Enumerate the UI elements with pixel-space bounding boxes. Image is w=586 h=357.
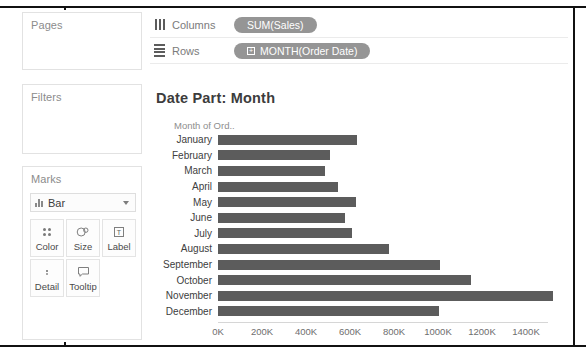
visualization-view: Date Part: Month Month of Ord.. JanuaryF… <box>150 66 568 342</box>
chart-row: March <box>150 163 568 179</box>
columns-shelf-label: Columns <box>172 19 234 31</box>
x-axis-tick-label: 600K <box>339 326 361 337</box>
x-axis-tick-label: 0K <box>212 326 224 337</box>
category-label: February <box>150 150 218 161</box>
chart-row: October <box>150 272 568 288</box>
marks-buttons: Color Size T <box>30 219 136 297</box>
category-label: September <box>150 259 218 270</box>
bar-track <box>218 179 568 195</box>
category-label: January <box>150 134 218 145</box>
x-axis: 0K200K400K600K800K1000K1200K1400K <box>150 322 568 340</box>
bar-track <box>218 241 568 257</box>
chart-row: May <box>150 194 568 210</box>
category-label: April <box>150 181 218 192</box>
pages-card[interactable]: Pages <box>22 12 142 70</box>
bar-track <box>218 132 568 148</box>
bar-chart[interactable]: JanuaryFebruaryMarchAprilMayJuneJulyAugu… <box>150 132 568 320</box>
chart-row: December <box>150 304 568 320</box>
marks-button-detail[interactable]: Detail <box>30 259 64 297</box>
marks-button-label[interactable]: T Label <box>102 219 136 257</box>
svg-text:T: T <box>117 229 122 236</box>
row-header-caption: Month of Ord.. <box>174 120 235 131</box>
category-label: March <box>150 165 218 176</box>
marks-button-label-label: Label <box>107 242 130 252</box>
marks-button-tooltip[interactable]: Tooltip <box>66 259 100 297</box>
bar-mark[interactable] <box>218 260 440 270</box>
bar-track <box>218 210 568 226</box>
rows-shelf[interactable]: Rows + MONTH(Order Date) <box>150 38 568 64</box>
bar-track <box>218 288 568 304</box>
frame-right-border <box>573 6 575 347</box>
bar-track <box>218 272 568 288</box>
chart-row: January <box>150 132 568 148</box>
marks-card: Marks Bar Color <box>22 166 142 340</box>
category-label: October <box>150 275 218 286</box>
bar-mark[interactable] <box>218 228 352 238</box>
marks-button-size[interactable]: Size <box>66 219 100 257</box>
left-rail: Pages Filters Marks Bar Color <box>22 10 142 342</box>
rows-icon <box>153 45 167 57</box>
bar-mark[interactable] <box>218 213 345 223</box>
marks-button-size-label: Size <box>74 242 92 252</box>
bar-mark[interactable] <box>218 244 389 254</box>
chevron-down-icon[interactable] <box>123 201 129 205</box>
chart-row: July <box>150 226 568 242</box>
frame-bottom-border <box>0 345 586 347</box>
size-circles-icon <box>76 225 90 240</box>
chart-row: April <box>150 179 568 195</box>
bar-chart-icon <box>35 198 43 207</box>
bar-mark[interactable] <box>218 275 471 285</box>
filters-card[interactable]: Filters <box>22 84 142 154</box>
label-text-icon: T <box>113 225 125 240</box>
bar-track <box>218 148 568 164</box>
x-axis-tick-label: 800K <box>383 326 405 337</box>
bar-track <box>218 257 568 273</box>
marks-button-color-label: Color <box>36 242 59 252</box>
frame-top-border <box>0 6 586 8</box>
bar-track <box>218 194 568 210</box>
x-axis-line <box>218 322 548 323</box>
marks-button-tooltip-label: Tooltip <box>69 282 96 292</box>
chart-row: June <box>150 210 568 226</box>
filters-card-title: Filters <box>23 85 141 103</box>
chart-row: February <box>150 148 568 164</box>
bar-mark[interactable] <box>218 150 330 160</box>
pill-sum-sales-text: SUM(Sales) <box>247 19 304 31</box>
columns-icon <box>153 19 167 31</box>
bar-mark[interactable] <box>218 197 356 207</box>
bar-track <box>218 304 568 320</box>
category-label: November <box>150 290 218 301</box>
pill-month-order-date[interactable]: + MONTH(Order Date) <box>234 43 370 59</box>
x-axis-tick-label: 1200K <box>468 326 495 337</box>
rows-shelf-label: Rows <box>172 45 234 57</box>
pages-card-title: Pages <box>23 13 141 31</box>
category-label: July <box>150 228 218 239</box>
columns-shelf[interactable]: Columns SUM(Sales) <box>150 12 568 38</box>
mark-type-dropdown[interactable]: Bar <box>30 193 136 212</box>
expand-plus-icon[interactable]: + <box>247 47 255 55</box>
x-axis-tick-label: 200K <box>251 326 273 337</box>
mark-type-label: Bar <box>48 197 123 209</box>
x-axis-tick-label: 400K <box>295 326 317 337</box>
x-axis-tick-label: 1400K <box>512 326 539 337</box>
bar-mark[interactable] <box>218 291 553 301</box>
tooltip-bubble-icon <box>77 265 90 280</box>
pill-sum-sales[interactable]: SUM(Sales) <box>234 17 317 33</box>
color-dots-icon <box>43 225 51 240</box>
category-label: August <box>150 243 218 254</box>
bar-mark[interactable] <box>218 135 357 145</box>
chart-row: November <box>150 288 568 304</box>
view-title: Date Part: Month <box>156 90 275 106</box>
bar-mark[interactable] <box>218 182 338 192</box>
worksheet-main: Columns SUM(Sales) Rows + MONTH(Order Da… <box>150 10 568 342</box>
category-label: May <box>150 197 218 208</box>
marks-button-color[interactable]: Color <box>30 219 64 257</box>
pill-month-order-date-text: MONTH(Order Date) <box>260 45 357 57</box>
tableau-worksheet: Pages Filters Marks Bar Color <box>0 0 586 357</box>
bar-track <box>218 163 568 179</box>
category-label: June <box>150 212 218 223</box>
detail-dots-icon <box>46 265 48 280</box>
chart-row: September <box>150 257 568 273</box>
bar-mark[interactable] <box>218 166 325 176</box>
bar-mark[interactable] <box>218 306 439 316</box>
